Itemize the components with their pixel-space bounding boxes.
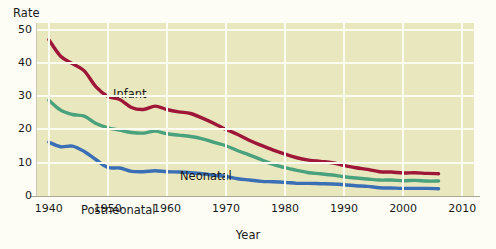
y-tick-label: 30	[10, 89, 32, 102]
gridline-vertical	[284, 23, 286, 196]
gridline-vertical	[166, 23, 168, 196]
y-tick-label: 20	[10, 122, 32, 135]
x-tick-label: 1950	[94, 202, 122, 215]
x-tick-label: 2000	[389, 202, 417, 215]
x-tick-label: 1980	[271, 202, 299, 215]
x-axis-line	[30, 196, 480, 197]
gridline-vertical	[402, 23, 404, 196]
y-axis-line	[36, 23, 37, 197]
gridline-horizontal	[37, 29, 474, 31]
x-tick-label: 2010	[448, 202, 476, 215]
gridline-horizontal	[37, 95, 474, 97]
y-tick-label: 50	[10, 23, 32, 36]
gridline-horizontal	[37, 162, 474, 164]
gridline-vertical	[343, 23, 345, 196]
gridline-vertical	[48, 23, 50, 196]
y-tick-label: 10	[10, 156, 32, 169]
gridline-vertical	[107, 23, 109, 196]
series-label-infant: Infant	[113, 87, 147, 101]
x-tick-label: 1990	[330, 202, 358, 215]
y-tick-label: 40	[10, 56, 32, 69]
gridline-vertical	[225, 23, 227, 196]
x-tick-label: 1940	[35, 202, 63, 215]
gridline-vertical	[461, 23, 463, 196]
x-tick-label: 1960	[153, 202, 181, 215]
series-lines	[37, 23, 474, 196]
gridline-horizontal	[37, 128, 474, 130]
y-axis-ticks: 01020304050	[8, 0, 32, 249]
y-tick-label: 0	[10, 189, 32, 202]
chart-screenshot: Rate Infant Neonatal Postneonatal 010203…	[0, 0, 496, 249]
x-axis-title: Year	[0, 228, 496, 242]
gridline-horizontal	[37, 62, 474, 64]
line-chart-figure: Rate Infant Neonatal Postneonatal 010203…	[0, 0, 496, 249]
x-tick-label: 1970	[212, 202, 240, 215]
plot-area: Infant Neonatal Postneonatal	[37, 23, 474, 196]
